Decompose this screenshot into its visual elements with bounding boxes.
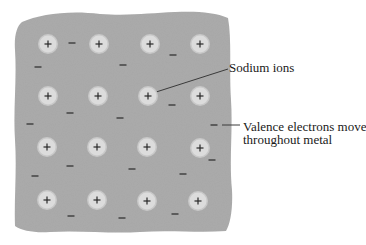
sodium-ion-plus-icon (140, 34, 160, 54)
electron-minus-icon (129, 168, 136, 170)
electron-minus-icon (180, 173, 187, 175)
valence-electrons-label-line2: throughout metal (243, 133, 366, 146)
electron-minus-icon (35, 66, 42, 68)
electron-minus-icon (211, 124, 218, 126)
sodium-ion-plus-icon (88, 86, 108, 106)
electron-minus-icon (117, 117, 124, 119)
electron-minus-icon (169, 104, 176, 106)
sodium-ion-plus-icon (89, 34, 109, 54)
electron-minus-icon (32, 175, 39, 177)
electron-minus-icon (67, 112, 74, 114)
sodium-ion-plus-icon (190, 34, 210, 54)
sodium-ion-plus-icon (38, 86, 58, 106)
sodium-ion-plus-icon (138, 86, 158, 106)
sodium-ion-plus-icon (137, 191, 157, 211)
electron-minus-icon (172, 213, 179, 215)
electron-minus-icon (170, 54, 177, 56)
electron-minus-icon (209, 159, 216, 161)
sodium-ion-plus-icon (87, 190, 107, 210)
sodium-ions-label: Sodium ions (229, 61, 294, 74)
sodium-ion-plus-icon (137, 137, 157, 157)
electron-minus-icon (68, 215, 75, 217)
electron-minus-icon (120, 64, 127, 66)
sodium-ion-plus-icon (190, 138, 210, 158)
electron-minus-icon (119, 217, 126, 219)
sodium-ion-plus-icon (37, 190, 57, 210)
sodium-ion-plus-icon (38, 34, 58, 54)
sodium-ion-plus-icon (87, 137, 107, 157)
electron-minus-icon (69, 42, 76, 44)
valence-electrons-label: Valence electrons move throughout metal (243, 120, 366, 146)
sodium-ion-plus-icon (188, 191, 208, 211)
sodium-ion-plus-icon (37, 137, 57, 157)
sodium-ion-plus-icon (190, 86, 210, 106)
electron-minus-icon (27, 123, 34, 125)
electron-minus-icon (67, 165, 74, 167)
